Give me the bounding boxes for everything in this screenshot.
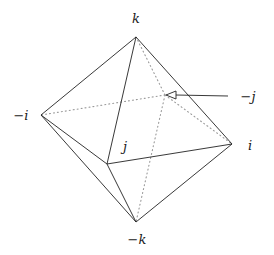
solid-edge <box>136 37 232 144</box>
solid-edge <box>107 164 136 222</box>
octahedron-diagram: k −i i j −k −j <box>0 0 274 255</box>
label-neg-j: −j <box>241 89 256 104</box>
dotted-edge <box>41 95 165 115</box>
label-k: k <box>132 11 140 26</box>
solid-edge <box>136 144 232 222</box>
visible-edges <box>41 37 232 222</box>
arrow-to-neg-j <box>166 91 228 99</box>
label-j: j <box>120 139 127 154</box>
arrowhead-icon <box>166 91 176 99</box>
label-neg-k: −k <box>128 232 147 247</box>
solid-edge <box>41 115 136 222</box>
solid-edge <box>107 37 136 164</box>
label-neg-i: −i <box>13 108 28 123</box>
solid-edge <box>41 37 136 115</box>
dotted-edge <box>165 95 232 144</box>
vertex-labels: k −i i j −k −j <box>13 11 255 247</box>
label-i: i <box>248 138 252 153</box>
hidden-edges <box>41 37 232 222</box>
solid-edge <box>41 115 107 164</box>
dotted-edge <box>136 37 165 95</box>
arrow-shaft <box>176 95 228 96</box>
